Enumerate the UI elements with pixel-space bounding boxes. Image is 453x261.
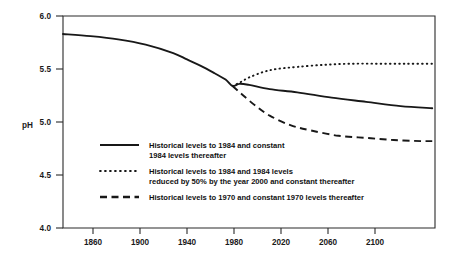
y-tick-label-4-0: 4.0 (40, 224, 52, 233)
y-tick-label-6-0: 6.0 (40, 12, 52, 21)
x-tick-label-2100: 2100 (366, 238, 385, 247)
legend-label-1-line1: Historical levels to 1984 and constant (149, 141, 285, 150)
series-historical-1970-constant (232, 86, 432, 141)
ph-trend-line-chart: 6.0 5.5 5.0 4.5 4.0 pH 1860 1900 1940 19… (0, 0, 453, 261)
legend-label-1-line2: 1984 levels thereafter (149, 151, 226, 160)
data-series-group (63, 34, 432, 141)
legend-label-3-line1: Historical levels to 1970 and constant 1… (149, 193, 364, 202)
y-tick-label-4-5: 4.5 (40, 171, 52, 180)
y-tick-label-5-5: 5.5 (40, 65, 52, 74)
chart-figure: 6.0 5.5 5.0 4.5 4.0 pH 1860 1900 1940 19… (0, 0, 453, 261)
legend-label-2-line1: Historical levels to 1984 and 1984 level… (149, 167, 293, 176)
y-axis-ticks (56, 16, 63, 228)
x-tick-label-2020: 2020 (272, 238, 291, 247)
chart-legend: Historical levels to 1984 and constant 1… (100, 141, 364, 202)
y-tick-label-5-0: 5.0 (40, 118, 52, 127)
x-tick-label-2060: 2060 (319, 238, 338, 247)
x-tick-label-1860: 1860 (84, 238, 103, 247)
x-axis-ticks (93, 228, 375, 234)
y-axis-title: pH (22, 121, 33, 130)
y-axis-tick-labels: 6.0 5.5 5.0 4.5 4.0 (40, 12, 52, 233)
x-tick-label-1900: 1900 (131, 238, 150, 247)
x-axis-tick-labels: 1860 1900 1940 1980 2020 2060 2100 (84, 238, 385, 247)
x-tick-label-1940: 1940 (178, 238, 197, 247)
x-tick-label-1980: 1980 (225, 238, 244, 247)
series-historical-1984-constant (63, 34, 432, 108)
series-1984-reduced-50pct (232, 64, 432, 86)
legend-label-2-line2: reduced by 50% by the year 2000 and cons… (149, 177, 355, 186)
